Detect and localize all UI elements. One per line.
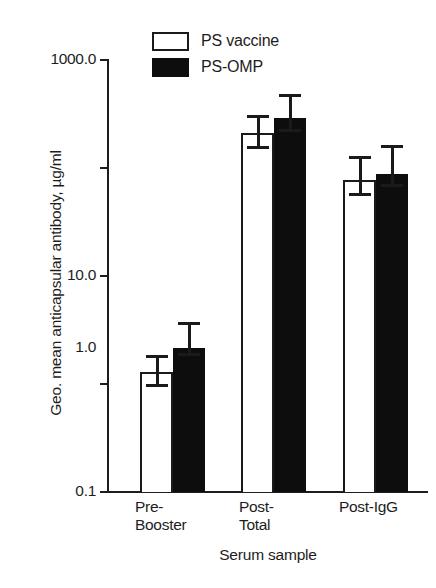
legend-item-ps-vaccine: PS vaccine: [152, 28, 279, 54]
errorbar-ps-vaccine-post-igg: [349, 156, 371, 196]
x-axis-group-label-pre-booster: Pre- Booster: [135, 498, 186, 534]
legend-label: PS vaccine: [201, 32, 279, 50]
x-axis-group-label-post-total: Post- Total: [239, 498, 274, 534]
y-axis-tick: [100, 167, 108, 169]
y-axis-tick: [100, 59, 108, 61]
errorbar-ps-omp-pre-booster: [178, 322, 200, 356]
legend-item-ps-omp: PS-OMP: [152, 54, 279, 80]
errorbar-ps-omp-post-igg: [381, 145, 403, 187]
bar-ps-vaccine-post-igg: [343, 180, 376, 492]
x-axis-title: Serum sample: [108, 546, 428, 564]
bar-ps-vaccine-pre-booster: [140, 372, 173, 492]
plot-area: [108, 60, 428, 492]
errorbar-ps-omp-post-total: [279, 94, 301, 132]
x-axis-group-label-post-igg: Post-IgG: [339, 498, 398, 516]
bar-ps-omp-post-igg: [376, 174, 408, 492]
y-axis-tick: [100, 491, 108, 493]
errorbar-ps-vaccine-pre-booster: [146, 355, 168, 387]
y-axis-title: Geo. mean anticapsular antibody, µg/ml: [47, 123, 65, 443]
bar-ps-omp-post-total: [274, 118, 306, 492]
open-square-icon: [152, 32, 189, 51]
chart-legend: PS vaccine PS-OMP: [152, 28, 279, 80]
chart-figure: PS vaccine PS-OMP 1000.0 10.0 1.0 0.1 Ge…: [0, 0, 436, 588]
bar-ps-vaccine-post-total: [241, 133, 274, 492]
y-axis-tick-label: 0.1: [6, 482, 96, 500]
bar-ps-omp-pre-booster: [173, 348, 205, 492]
y-axis-tick: [100, 383, 108, 385]
filled-square-icon: [152, 58, 189, 77]
legend-label: PS-OMP: [201, 58, 263, 76]
y-axis-tick: [100, 275, 108, 277]
y-axis-tick-label: 1000.0: [6, 50, 96, 68]
errorbar-ps-vaccine-post-total: [247, 115, 269, 149]
